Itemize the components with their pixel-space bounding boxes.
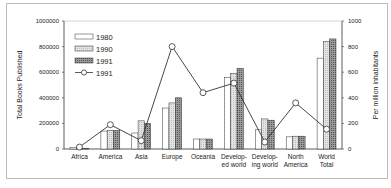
line-marker (200, 90, 206, 96)
line-marker (293, 100, 299, 106)
x-category-label: Oceania (191, 153, 216, 160)
y2-tick-label: 200 (348, 120, 359, 126)
y2-tick-label: 400 (348, 95, 359, 101)
y-tick-label: 600000 (39, 69, 60, 75)
chart-frame: 0200000400000600000800000100000002004006… (6, 3, 388, 179)
line-marker (107, 122, 113, 128)
x-category-label: America (284, 161, 308, 168)
y-tick-label: 1000000 (36, 18, 60, 24)
bar-1990 (200, 139, 206, 149)
x-category-label: America (98, 153, 122, 160)
bar-1980 (286, 137, 292, 149)
x-category-label: World (318, 153, 335, 160)
bar-1991 (237, 68, 243, 149)
bar-1991 (299, 136, 305, 149)
legend: 1980199019911991 (75, 33, 113, 78)
y2-axis-label: Per million inhabitants (372, 50, 379, 119)
y-tick-label: 0 (56, 146, 60, 152)
legend-swatch-1980 (75, 34, 93, 39)
line-marker (76, 144, 82, 150)
bar-1991 (175, 98, 181, 149)
y-tick-label: 800000 (39, 44, 60, 50)
legend-swatch-1990 (75, 46, 93, 51)
x-category-label: Develop- (221, 153, 247, 161)
x-category-label: Europe (162, 153, 183, 161)
y2-tick-label: 600 (348, 69, 359, 75)
y-tick-label: 200000 (39, 120, 60, 126)
x-category-label: Asia (135, 153, 148, 160)
line-marker (231, 80, 237, 86)
bar-1980 (101, 131, 107, 149)
x-category-label: North (288, 153, 304, 160)
bar-1990 (107, 130, 113, 149)
line-marker (324, 126, 330, 132)
bar-1980 (163, 108, 169, 149)
bar-1990 (169, 103, 175, 149)
x-category-label: ed world (222, 161, 247, 168)
bar-1991 (330, 39, 336, 149)
legend-label: 1991 (96, 57, 113, 66)
x-category-label: Total (320, 161, 334, 168)
bar-1990 (323, 41, 329, 149)
line-marker (262, 139, 268, 145)
bar-1990 (293, 136, 299, 149)
legend-label: 1990 (96, 45, 113, 54)
bar-1980 (132, 133, 138, 149)
legend-label: 1991 (96, 69, 113, 78)
bar-1980 (70, 147, 76, 149)
legend-swatch-1991 (75, 58, 93, 63)
legend-label: 1980 (96, 33, 113, 42)
bar-1980 (224, 77, 230, 149)
line-marker (169, 44, 175, 50)
line-marker (138, 138, 144, 144)
x-category-label: ing world (252, 161, 278, 169)
bar-1991 (206, 139, 212, 149)
y2-tick-label: 1000 (348, 18, 362, 24)
bar-1991 (83, 148, 89, 149)
bar-1991 (113, 130, 119, 149)
bar-1980 (194, 139, 200, 149)
bar-1980 (255, 130, 261, 149)
y-axis-label: Total Books Published (16, 50, 23, 119)
y-tick-label: 400000 (39, 95, 60, 101)
x-category-label: Develop- (252, 153, 278, 161)
books-published-chart: 0200000400000600000800000100000002004006… (7, 4, 387, 178)
legend-marker (81, 70, 86, 75)
x-category-label: Africa (71, 153, 88, 160)
bar-1980 (317, 58, 323, 149)
y2-tick-label: 800 (348, 44, 359, 50)
y2-tick-label: 0 (348, 146, 352, 152)
